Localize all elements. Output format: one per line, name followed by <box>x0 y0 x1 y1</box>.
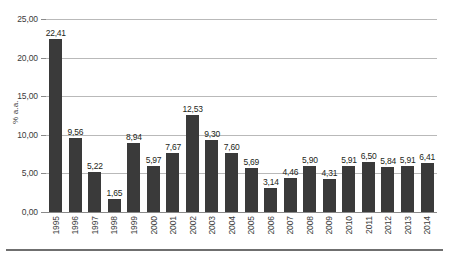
bar-group: 4,462007 <box>281 19 301 212</box>
bar-1999[interactable] <box>127 143 140 212</box>
y-tick-label: 5,00 <box>22 168 38 178</box>
bar-value-label-2008: 5,90 <box>302 155 318 165</box>
bar-value-label-2013: 5,91 <box>400 155 416 165</box>
bar-2000[interactable] <box>147 166 160 212</box>
bar-group: 5,972000 <box>144 19 164 212</box>
bar-2003[interactable] <box>205 140 218 212</box>
bar-group: 5,842012 <box>378 19 398 212</box>
bar-2013[interactable] <box>401 166 414 212</box>
bar-value-label-2009: 4,31 <box>322 168 338 178</box>
bar-value-label-2004: 7,60 <box>224 142 240 152</box>
y-tick-label: 20,00 <box>17 53 38 63</box>
bar-group: 9,561996 <box>66 19 86 212</box>
x-tick-label-2009: 2009 <box>324 216 334 235</box>
x-tick-label-2004: 2004 <box>227 216 237 235</box>
y-tick-mark <box>41 212 46 213</box>
bar-value-label-1995: 22,41 <box>46 28 66 38</box>
bar-group: 5,912013 <box>398 19 418 212</box>
bar-value-label-2006: 3,14 <box>263 177 279 187</box>
gridline-0-00 <box>46 212 437 213</box>
bar-chart-figure: % a.a. 0,005,0010,0015,0020,0025,0022,41… <box>0 0 449 260</box>
bar-group: 5,902008 <box>300 19 320 212</box>
bar-2008[interactable] <box>303 166 316 212</box>
bar-2004[interactable] <box>225 153 238 212</box>
bar-value-label-2001: 7,67 <box>165 142 181 152</box>
bar-value-label-1999: 8,94 <box>126 132 142 142</box>
x-tick-label-1998: 1998 <box>109 216 119 235</box>
x-tick-label-1999: 1999 <box>129 216 139 235</box>
bar-group: 5,692005 <box>242 19 262 212</box>
x-tick-label-2005: 2005 <box>246 216 256 235</box>
bar-value-label-1996: 9,56 <box>67 127 83 137</box>
bar-group: 7,672001 <box>163 19 183 212</box>
bar-group: 5,221997 <box>85 19 105 212</box>
bar-value-label-2000: 5,97 <box>146 155 162 165</box>
bar-value-label-2014: 6,41 <box>419 152 435 162</box>
figure-caption <box>7 254 307 260</box>
bar-group: 5,912010 <box>339 19 359 212</box>
horizontal-rule <box>6 249 443 251</box>
bar-2006[interactable] <box>264 188 277 212</box>
bar-2014[interactable] <box>421 163 434 212</box>
x-tick-label-2012: 2012 <box>383 216 393 235</box>
bar-2007[interactable] <box>284 178 297 212</box>
bar-group: 8,941999 <box>124 19 144 212</box>
bar-group: 7,602004 <box>222 19 242 212</box>
bar-value-label-2012: 5,84 <box>380 156 396 166</box>
x-tick-label-2010: 2010 <box>344 216 354 235</box>
y-tick-label: 25,00 <box>17 14 38 24</box>
bar-value-label-2007: 4,46 <box>282 167 298 177</box>
bar-value-label-2003: 9,30 <box>204 129 220 139</box>
x-tick-label-2000: 2000 <box>149 216 159 235</box>
x-tick-label-1995: 1995 <box>51 216 61 235</box>
x-tick-label-2008: 2008 <box>305 216 315 235</box>
x-tick-label-1996: 1996 <box>70 216 80 235</box>
y-tick-label: 10,00 <box>17 130 38 140</box>
bar-1996[interactable] <box>69 138 82 212</box>
bar-group: 3,142006 <box>261 19 281 212</box>
y-axis-title: % a.a. <box>11 100 20 124</box>
bar-1995[interactable] <box>49 39 62 212</box>
bar-1997[interactable] <box>88 172 101 212</box>
x-tick-label-2002: 2002 <box>188 216 198 235</box>
bar-group: 22,411995 <box>46 19 66 212</box>
bar-2001[interactable] <box>166 153 179 212</box>
bar-group: 4,312009 <box>320 19 340 212</box>
x-tick-label-2007: 2007 <box>285 216 295 235</box>
bar-value-label-2010: 5,91 <box>341 155 357 165</box>
bar-2005[interactable] <box>245 168 258 212</box>
bar-value-label-2011: 6,50 <box>361 151 377 161</box>
x-tick-label-2011: 2011 <box>364 216 374 234</box>
x-tick-label-2003: 2003 <box>207 216 217 235</box>
bar-group: 6,412014 <box>417 19 437 212</box>
bar-group: 1,651998 <box>105 19 125 212</box>
bar-value-label-2005: 5,69 <box>243 157 259 167</box>
plot-area: 0,005,0010,0015,0020,0025,0022,4119959,5… <box>46 19 437 212</box>
bar-2009[interactable] <box>323 179 336 212</box>
x-tick-label-2013: 2013 <box>403 216 413 235</box>
x-tick-label-2001: 2001 <box>168 216 178 235</box>
bar-2012[interactable] <box>381 167 394 212</box>
bar-2011[interactable] <box>362 162 375 212</box>
bar-group: 12,532002 <box>183 19 203 212</box>
bar-value-label-2002: 12,53 <box>182 104 202 114</box>
y-tick-label: 15,00 <box>17 91 38 101</box>
y-tick-label: 0,00 <box>22 207 38 217</box>
x-tick-label-1997: 1997 <box>90 216 100 235</box>
bar-group: 9,302003 <box>202 19 222 212</box>
bar-2010[interactable] <box>342 166 355 212</box>
x-tick-label-2014: 2014 <box>422 216 432 235</box>
bar-value-label-1998: 1,65 <box>107 188 123 198</box>
bar-2002[interactable] <box>186 115 199 212</box>
bar-value-label-1997: 5,22 <box>87 161 103 171</box>
bar-1998[interactable] <box>108 199 121 212</box>
bar-group: 6,502011 <box>359 19 379 212</box>
x-tick-label-2006: 2006 <box>266 216 276 235</box>
